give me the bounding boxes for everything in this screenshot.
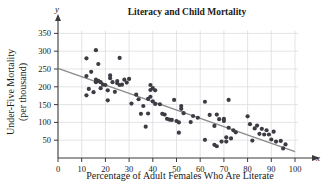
data-point — [136, 97, 140, 101]
y-tick-label: 300 — [38, 46, 51, 56]
data-point — [84, 74, 88, 78]
x-tick-label: 20 — [101, 164, 110, 174]
data-point — [96, 62, 100, 66]
data-point — [269, 137, 273, 141]
x-tick-label: 60 — [196, 164, 205, 174]
data-point — [146, 111, 150, 115]
data-point — [246, 114, 250, 118]
data-point — [283, 142, 287, 146]
y-tick-label: 50 — [43, 135, 52, 145]
data-point — [255, 124, 259, 128]
y-tick-label: 250 — [38, 64, 51, 74]
data-point — [91, 90, 95, 94]
data-point — [227, 126, 231, 130]
chart-title: Literacy and Child Mortality — [128, 7, 247, 17]
data-point — [215, 144, 219, 148]
data-point — [267, 132, 271, 136]
data-point — [144, 125, 148, 129]
data-point — [106, 88, 110, 92]
y-tick-label: 350 — [38, 28, 51, 38]
data-point — [191, 114, 195, 118]
data-point — [108, 76, 112, 80]
data-point — [113, 90, 117, 94]
data-point — [203, 138, 207, 142]
data-point — [264, 128, 268, 132]
data-point — [172, 98, 176, 102]
scatter-plot-figure: Literacy and Child Mortality Percentage … — [0, 0, 328, 184]
data-point — [125, 80, 129, 84]
data-point — [219, 140, 223, 144]
y-tick-label: 200 — [38, 82, 51, 92]
data-point — [163, 112, 167, 116]
data-point — [229, 136, 233, 140]
x-axis-symbol: x — [315, 153, 320, 163]
x-tick-label: 70 — [220, 164, 229, 174]
x-tick-label: 40 — [149, 164, 158, 174]
data-point — [120, 83, 124, 87]
data-point — [189, 120, 193, 124]
x-tick-label: 80 — [243, 164, 252, 174]
data-point — [106, 98, 110, 102]
data-point — [208, 113, 212, 117]
x-tick-label: 50 — [172, 164, 181, 174]
chart-labels: Literacy and Child Mortality Percentage … — [5, 4, 320, 181]
data-point — [127, 77, 131, 81]
data-point — [274, 140, 278, 144]
tick-marks — [54, 33, 295, 162]
data-point — [141, 104, 145, 108]
data-point — [134, 93, 138, 97]
data-point — [177, 131, 181, 135]
x-tick-label: 90 — [267, 164, 276, 174]
data-point — [250, 138, 254, 142]
data-point — [279, 139, 283, 143]
data-point — [227, 98, 231, 102]
data-points — [84, 48, 287, 150]
data-point — [158, 102, 162, 106]
data-point — [84, 93, 88, 97]
data-point — [179, 107, 183, 111]
data-point — [196, 116, 200, 120]
data-point — [129, 101, 133, 105]
data-point — [118, 56, 122, 60]
x-tick-label: 30 — [125, 164, 134, 174]
data-point — [224, 135, 228, 139]
data-point — [224, 140, 228, 144]
data-point — [87, 87, 91, 91]
data-point — [139, 112, 143, 116]
data-point — [248, 122, 252, 126]
data-point — [153, 88, 157, 92]
x-tick-label: 0 — [56, 164, 60, 174]
data-point — [234, 130, 238, 134]
y-axis-label-line2: (per thousand) — [17, 63, 29, 121]
x-tick-label: 10 — [77, 164, 86, 174]
data-point — [89, 70, 93, 74]
y-axis-symbol: y — [54, 4, 59, 14]
data-point — [103, 83, 107, 87]
data-point — [260, 127, 264, 131]
data-point — [215, 112, 219, 116]
data-point — [203, 100, 207, 104]
data-point — [281, 146, 285, 150]
data-point — [212, 124, 216, 128]
y-tick-label: 100 — [38, 117, 51, 127]
data-point — [257, 132, 261, 136]
data-point — [94, 48, 98, 52]
data-point — [148, 95, 152, 99]
data-point — [177, 120, 181, 124]
y-tick-label: 150 — [38, 100, 51, 110]
y-axis-label-line1: Under-Five Mortality — [5, 49, 16, 135]
data-point — [272, 130, 276, 134]
y-tick-labels: 50100150200250300350 — [38, 28, 51, 145]
y-axis-arrow-icon — [55, 14, 61, 21]
data-point — [222, 117, 226, 121]
data-point — [262, 132, 266, 136]
data-point — [153, 102, 157, 106]
x-tick-label: 100 — [289, 164, 302, 174]
data-point — [99, 86, 103, 90]
data-point — [110, 80, 114, 84]
chart-canvas: Literacy and Child Mortality Percentage … — [0, 0, 328, 184]
data-point — [182, 111, 186, 115]
data-point — [170, 118, 174, 122]
data-point — [217, 117, 221, 121]
data-point — [84, 56, 88, 60]
